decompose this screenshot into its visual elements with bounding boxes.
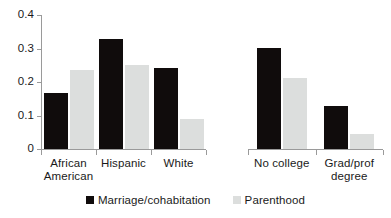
x-tick-mark <box>206 150 207 155</box>
category-label-line: Grad/prof <box>325 157 374 169</box>
bar-parenthood-african-american <box>70 70 94 149</box>
y-tick-mark <box>37 15 42 16</box>
bar-parenthood-hispanic <box>125 65 149 149</box>
category-label-white: White <box>134 157 224 170</box>
bar-parenthood-grad-prof-degree <box>350 134 374 149</box>
bar-marriage-cohabitation-african-american <box>44 93 68 149</box>
legend-item-marriage-cohabitation: Marriage/cohabitation <box>86 194 211 206</box>
x-tick-mark <box>316 150 317 155</box>
bar-marriage-cohabitation-hispanic <box>99 39 123 149</box>
y-tick-mark <box>37 116 42 117</box>
y-tick-mark <box>37 82 42 83</box>
x-axis-line-left <box>41 149 206 150</box>
bar-chart: 00.10.20.30.4 AfricanAmericanHispanicWhi… <box>0 0 391 218</box>
category-label-grad-prof-degree: Grad/profdegree <box>304 157 391 183</box>
bar-marriage-cohabitation-grad-prof-degree <box>324 106 348 149</box>
legend-label: Parenthood <box>245 194 305 206</box>
y-tick-label: 0 <box>0 143 34 155</box>
category-label-line: degree <box>304 170 391 183</box>
y-tick-label: 0.2 <box>0 76 34 88</box>
legend-swatch-icon <box>86 196 94 204</box>
bar-parenthood-no-college <box>283 78 307 149</box>
chart-legend: Marriage/cohabitationParenthood <box>0 194 391 206</box>
x-tick-mark <box>41 150 42 155</box>
y-tick-label: 0.4 <box>0 9 34 21</box>
legend-item-parenthood: Parenthood <box>233 194 305 206</box>
x-tick-mark <box>383 150 384 155</box>
category-label-line: No college <box>254 157 309 169</box>
legend-swatch-icon <box>233 196 241 204</box>
bar-parenthood-white <box>180 119 204 149</box>
bar-marriage-cohabitation-no-college <box>257 48 281 150</box>
bar-marriage-cohabitation-white <box>154 68 178 149</box>
category-label-line: American <box>24 170 114 183</box>
y-tick-mark <box>37 49 42 50</box>
y-tick-label: 0.1 <box>0 110 34 122</box>
category-label-line: White <box>164 157 194 169</box>
plot-area <box>0 0 391 218</box>
x-tick-mark <box>248 150 249 155</box>
x-tick-mark <box>151 150 152 155</box>
legend-label: Marriage/cohabitation <box>98 194 211 206</box>
y-tick-label: 0.3 <box>0 43 34 55</box>
x-tick-mark <box>96 150 97 155</box>
